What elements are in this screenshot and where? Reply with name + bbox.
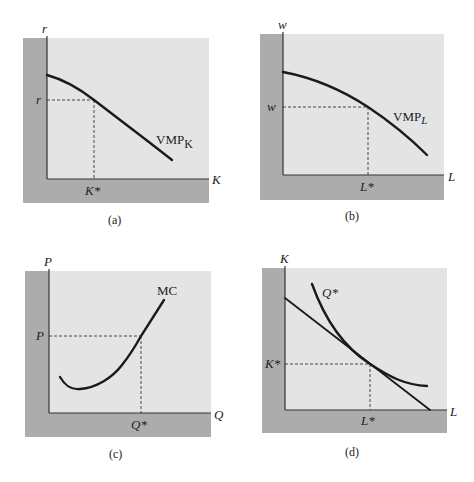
panel-d-curve-label: Q* — [322, 285, 338, 300]
panel-a-x-axis-label: K — [211, 172, 222, 187]
panel-c-y-tick-label: P — [35, 328, 44, 343]
figure-svg: r K r K* VMPK (a) w L w L* VMPL (b) P Q … — [0, 0, 474, 482]
panel-b: w L w L* VMPL (b) — [260, 17, 455, 223]
panel-c-x-tick-label: Q* — [131, 417, 147, 432]
panel-c: P Q P Q* MC (c) — [25, 254, 224, 461]
panel-c-curve-label: MC — [157, 283, 177, 298]
panel-d-caption: (d) — [345, 445, 359, 459]
panel-a-y-axis-label: r — [42, 21, 48, 36]
panel-a-caption: (a) — [108, 213, 121, 227]
panel-d-x-axis-label: L — [449, 404, 457, 419]
panel-d-plot-area — [285, 268, 447, 410]
panel-a: r K r K* VMPK (a) — [23, 21, 222, 227]
panel-a-plot-area — [47, 38, 209, 179]
panel-d-y-tick-label: K* — [264, 356, 281, 371]
panel-b-caption: (b) — [345, 209, 359, 223]
panel-a-x-tick-label: K* — [84, 183, 101, 198]
panel-d-y-axis-label: K — [279, 251, 290, 266]
panel-c-caption: (c) — [109, 447, 122, 461]
panel-d: K L K* L* Q* (d) — [262, 251, 457, 459]
panel-b-y-tick-label: w — [267, 99, 276, 114]
panel-c-plot-area — [49, 271, 211, 413]
panel-c-y-axis-label: P — [43, 254, 52, 269]
panel-b-x-axis-label: L — [447, 169, 455, 184]
panel-b-x-tick-label: L* — [359, 179, 374, 194]
panel-c-x-axis-label: Q — [214, 407, 224, 422]
figure-four-panels: r K r K* VMPK (a) w L w L* VMPL (b) P Q … — [0, 0, 474, 482]
panel-d-x-tick-label: L* — [360, 413, 375, 428]
panel-b-y-axis-label: w — [278, 17, 287, 32]
